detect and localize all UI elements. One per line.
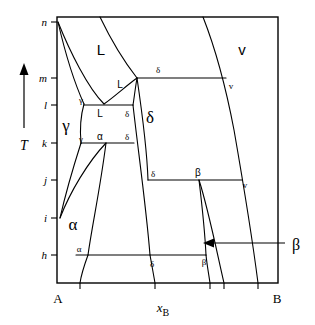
temperature-arrow-head [20,63,29,75]
label-vapor-main: v [238,41,246,58]
label-alpha-main: α [69,215,78,234]
label-liquid-upper-right: L [117,79,123,90]
temperature-axis-indicator: T [20,63,30,153]
boundary-alpha-to-i [60,143,106,218]
x-axis-ticks [80,283,258,289]
boundary-delta-right [137,78,148,180]
x-axis-title: xB [156,300,170,318]
svg-text:xB: xB [156,300,170,318]
label-delta-box-bottom: δ [125,132,129,142]
tick-label-m: m [39,72,47,84]
label-gamma-main: γ [61,116,70,135]
x-axis-title-subscript: B [163,307,170,318]
label-delta-at-h: δ [150,259,154,269]
y-axis-ticks [51,22,57,255]
label-delta-at-j: δ [151,169,155,179]
label-gamma-at-k: γ [78,134,83,144]
label-liquid-main: L [97,41,105,58]
temperature-axis-label: T [20,138,29,153]
y-axis-tick-labels: n m l k j i h [39,16,48,261]
label-vapor-at-m: v [229,81,234,91]
beta-callout-label: β [292,236,300,254]
label-delta-at-m: δ [156,65,160,75]
phase-diagram-canvas: n m l k j i h T [0,0,315,325]
boundary-beta-right [199,180,224,283]
label-beta-at-h: β [202,257,207,267]
boundary-liquidus-top-right [100,17,137,78]
axis-endpoint-B: B [273,291,282,306]
tick-label-n: n [42,16,48,28]
axis-endpoint-A: A [53,291,63,306]
label-alpha-at-h: α [77,244,82,254]
boundary-delta-left-upper [133,78,137,105]
x-axis-endpoint-labels: A B [53,291,281,306]
label-liquid-in-box: L [97,108,103,119]
boundary-alpha-right [88,143,106,255]
label-vapor-at-j: v [243,180,248,190]
tick-label-h: h [42,249,48,261]
boundary-n-to-gamma-l [58,22,84,104]
tick-label-l: l [44,99,47,111]
label-delta-box-top: δ [125,109,129,119]
label-delta-main: δ [146,108,154,127]
tick-label-i: i [44,212,47,224]
label-gamma-at-l: γ [78,95,83,105]
boundary-alpha-below-h [80,255,88,283]
boundary-beta-below-h [206,255,210,283]
label-beta-at-j: β [195,167,201,178]
boundary-n-to-liquid-l [58,22,104,104]
phase-diagram-figure: n m l k j i h T [0,0,315,325]
region-labels: L v γ δ α L δ v γ L δ γ α δ δ β v α δ β [61,41,248,269]
tick-label-j: j [42,174,47,186]
tick-label-k: k [42,137,48,149]
label-alpha-in-box: α [97,131,103,142]
